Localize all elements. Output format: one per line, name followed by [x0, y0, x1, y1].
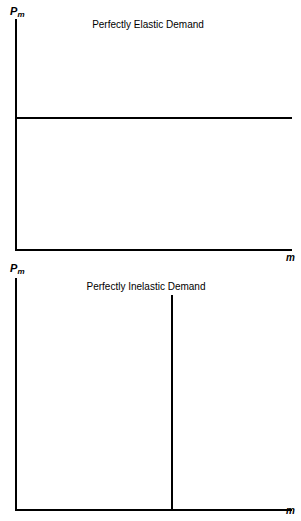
chart-perfectly-inelastic-demand	[0, 262, 301, 521]
x-axis-line	[15, 509, 292, 511]
y-axis-line	[15, 278, 17, 511]
x-axis-line	[15, 249, 292, 251]
y-axis-label: Pm	[10, 6, 25, 20]
chart-title: Perfectly Elastic Demand	[48, 19, 248, 31]
perfectly-elastic-demand-curve	[15, 117, 292, 119]
y-axis-line	[15, 19, 17, 251]
y-axis-label-subscript: m	[18, 267, 25, 276]
y-axis-label-main: P	[10, 262, 18, 274]
y-axis-label: Pm	[10, 263, 25, 277]
perfectly-inelastic-demand-curve	[171, 295, 173, 511]
x-axis-label: m	[286, 506, 295, 516]
y-axis-label-subscript: m	[18, 10, 25, 19]
chart-title: Perfectly Inelastic Demand	[46, 281, 246, 293]
y-axis-label-main: P	[10, 5, 18, 17]
chart-perfectly-elastic-demand: Pm Perfectly Elastic Demand m	[0, 0, 301, 262]
